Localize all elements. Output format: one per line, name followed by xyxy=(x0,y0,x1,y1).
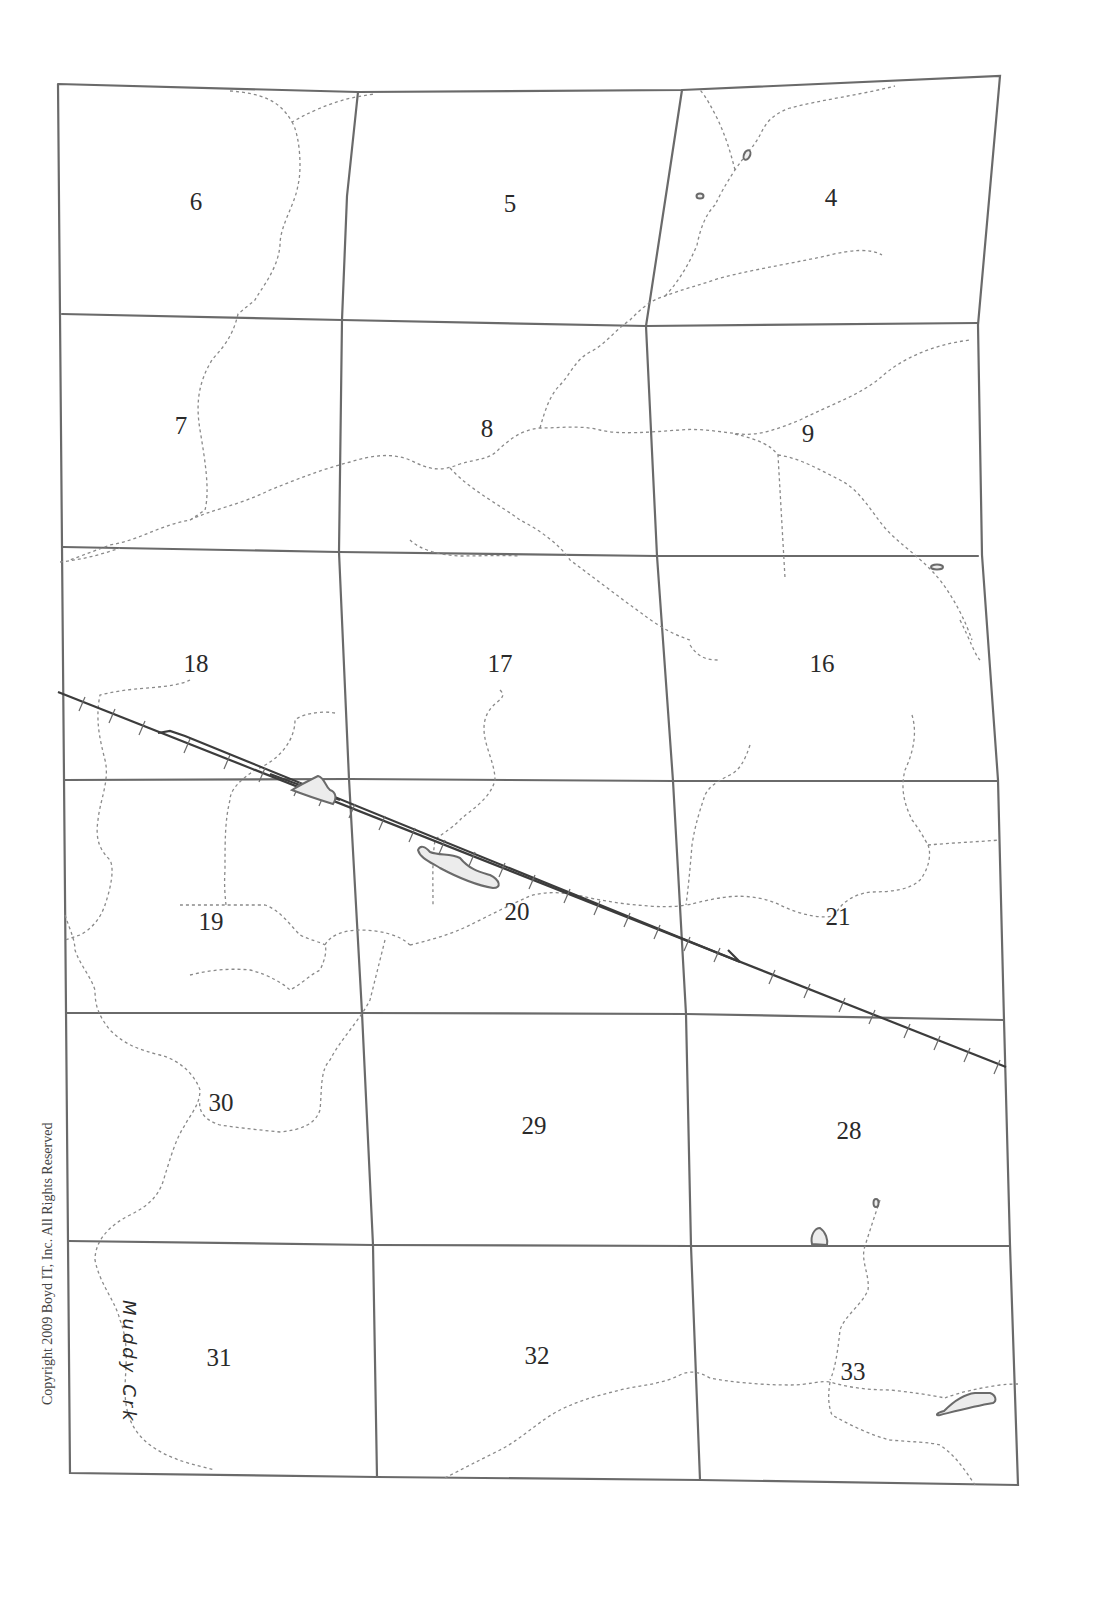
pond-sec33 xyxy=(937,1393,995,1415)
section-label: 28 xyxy=(837,1117,862,1144)
section-label: 18 xyxy=(184,650,209,677)
section-label: 9 xyxy=(802,420,815,447)
pond-sec4-b xyxy=(697,194,704,199)
section-label: 21 xyxy=(826,903,851,930)
section-label: 7 xyxy=(175,412,188,439)
section-label: 30 xyxy=(209,1089,234,1116)
row-line-1 xyxy=(62,314,978,326)
section-label: 29 xyxy=(522,1112,547,1139)
section-label: 8 xyxy=(481,415,494,442)
section-label: 32 xyxy=(525,1342,550,1369)
section-label: 33 xyxy=(841,1358,866,1385)
row-line-2 xyxy=(63,547,978,556)
section-label: 5 xyxy=(504,190,517,217)
section-label: 31 xyxy=(207,1344,232,1371)
ponds xyxy=(292,149,995,1415)
section-label: 17 xyxy=(488,650,513,677)
pond-sec28-33 xyxy=(812,1228,828,1245)
section-label: 20 xyxy=(505,898,530,925)
col-line-1 xyxy=(339,92,377,1477)
section-map: 6 5 4 7 8 9 18 17 16 19 20 21 30 29 28 3… xyxy=(0,0,1093,1612)
row-line-5 xyxy=(68,1241,1010,1246)
pond-sec9 xyxy=(931,565,943,570)
section-labels: 6 5 4 7 8 9 18 17 16 19 20 21 30 29 28 3… xyxy=(175,184,866,1385)
pond-sec20 xyxy=(418,847,499,888)
creek-name-label: Muddy Crk xyxy=(119,1300,140,1424)
section-label: 19 xyxy=(199,908,224,935)
section-label: 16 xyxy=(810,650,835,677)
section-label: 4 xyxy=(825,184,838,211)
creeks xyxy=(60,86,1018,1485)
col-line-2 xyxy=(646,90,700,1480)
section-grid xyxy=(58,76,1018,1485)
section-label: 6 xyxy=(190,188,203,215)
pond-sec28 xyxy=(874,1199,879,1207)
copyright-notice: Copyright 2009 Boyd IT, Inc. All Rights … xyxy=(40,1123,55,1405)
row-line-3 xyxy=(64,779,998,781)
pond-sec4-a xyxy=(742,149,752,161)
row-line-4 xyxy=(66,1013,1004,1020)
